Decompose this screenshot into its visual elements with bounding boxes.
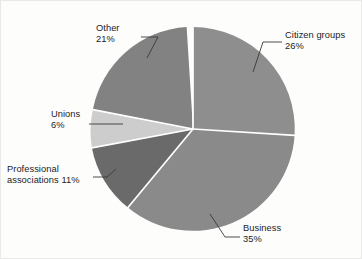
slice-label-professional-associations: Professional associations 11% xyxy=(7,164,79,187)
slice-label-unions: Unions 6% xyxy=(51,109,80,132)
slice-label-other: Other 21% xyxy=(96,23,120,46)
pie-slice-citizen-groups[interactable] xyxy=(193,27,295,135)
slice-label-citizen-groups: Citizen groups 26% xyxy=(285,30,345,53)
slice-label-business: Business 35% xyxy=(243,223,281,246)
pie-chart-figure: Citizen groups 26% Other 21% Unions 6% P… xyxy=(0,0,362,259)
